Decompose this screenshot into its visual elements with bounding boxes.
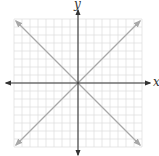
coordinate-plane: [0, 0, 159, 156]
x-axis-label: x: [153, 76, 159, 88]
y-axis-label: y: [74, 0, 81, 10]
